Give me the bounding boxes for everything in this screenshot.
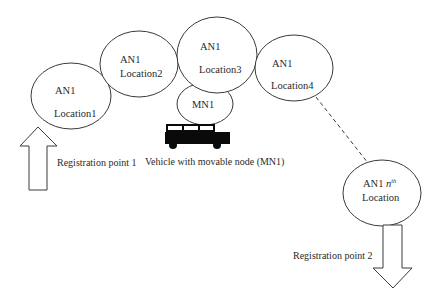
node-label-superscript: th <box>391 177 396 184</box>
node-an1-nth-location: AN1 nth Location <box>343 160 421 226</box>
node-label-an1: AN1 <box>120 54 140 65</box>
node-label-location: Location2 <box>120 68 163 79</box>
node-label-an1: AN1 <box>55 85 75 96</box>
node-ellipse <box>255 35 333 101</box>
node-an1-location4: AN1 Location4 <box>255 35 333 101</box>
node-label-prefix: AN1 <box>363 178 386 189</box>
node-an1-location2: AN1 Location2 <box>100 31 178 97</box>
node-an1-location1: AN1 Location1 <box>31 63 111 129</box>
movable-node-diagram: AN1 Location1 AN1 Location2 MN1 AN1 Loca… <box>0 0 440 301</box>
node-label-location: Location3 <box>199 64 242 75</box>
node-label-an1: AN1 <box>272 58 292 69</box>
node-label-location: Location1 <box>54 108 97 119</box>
registration-point-2-label: Registration point 2 <box>293 250 372 261</box>
registration-point-1-label: Registration point 1 <box>57 157 136 168</box>
node-label-an1: AN1 <box>200 41 220 52</box>
dashed-link-loc4-to-nth <box>316 97 368 163</box>
node-label-location: Location4 <box>271 80 314 91</box>
vehicle-caption: Vehicle with movable node (MN1) <box>145 156 284 168</box>
registration-up-arrow-icon <box>20 127 57 190</box>
node-label-location: Location <box>362 192 400 203</box>
node-label-mn1: MN1 <box>192 99 214 110</box>
node-ellipse <box>31 63 111 129</box>
node-ellipse <box>177 17 257 93</box>
registration-down-arrow-icon <box>373 225 412 288</box>
bus-icon <box>165 124 230 149</box>
node-an1-location3: AN1 Location3 <box>177 17 257 93</box>
